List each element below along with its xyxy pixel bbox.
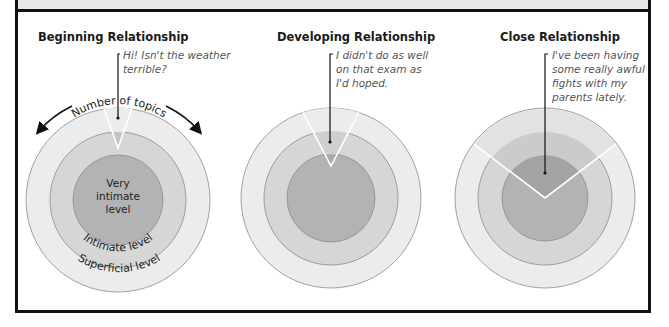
quote-line: I've been having xyxy=(552,49,639,61)
quote-line: I didn't do as well xyxy=(336,49,428,61)
panel-beginning: Beginning Relationship Hi! Isn't the wea… xyxy=(26,30,231,292)
pointer-dot xyxy=(543,171,546,174)
panel-title: Close Relationship xyxy=(500,30,620,44)
quote-line: fights with my xyxy=(552,77,628,89)
pointer-dot xyxy=(116,116,119,119)
very-intimate-label: Very xyxy=(106,177,129,189)
quote-line: terrible? xyxy=(123,63,167,75)
quote-line: Hi! Isn't the weather xyxy=(123,49,231,61)
panel-title: Beginning Relationship xyxy=(38,30,189,44)
quote-line: parents lately. xyxy=(551,91,627,103)
panel-developing: Developing Relationship I didn't do as w… xyxy=(241,30,435,288)
quote-line: some really awful xyxy=(552,63,645,75)
very-intimate-label: intimate xyxy=(96,190,140,202)
diagram-canvas: Beginning Relationship Hi! Isn't the wea… xyxy=(0,0,669,327)
panel-close: Close Relationship I've been having some… xyxy=(455,30,645,288)
quote-line: on that exam as xyxy=(336,63,422,75)
quote-line: I'd hoped. xyxy=(336,77,388,89)
very-intimate-label: level xyxy=(106,203,131,215)
pointer-dot xyxy=(328,140,331,143)
panel-title: Developing Relationship xyxy=(277,30,435,44)
